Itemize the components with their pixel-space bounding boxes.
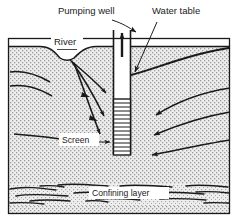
groundwater-cross-section-figure: Pumping well Water table River Screen Co… — [0, 0, 236, 216]
screen-label: Screen — [62, 135, 89, 145]
confining-layer-label: Confining layer — [92, 188, 149, 198]
water-table-label: Water table — [152, 5, 200, 16]
pumping-well — [114, 30, 131, 155]
diagram-canvas: Pumping well Water table River Screen Co… — [0, 0, 236, 216]
pumping-well-label: Pumping well — [58, 5, 115, 16]
river-label: River — [54, 36, 76, 47]
